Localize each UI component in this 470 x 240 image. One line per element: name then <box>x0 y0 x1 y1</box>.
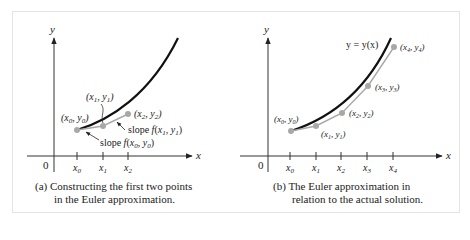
svg-text:x1: x1 <box>311 162 320 175</box>
svg-text:(x2, y2): (x2, y2) <box>134 108 162 121</box>
svg-text:x0: x0 <box>285 162 294 175</box>
caption-a: (a) Constructing the first two points in… <box>35 180 192 206</box>
svg-text:(x4, y4): (x4, y4) <box>400 42 425 53</box>
svg-text:(x2, y2): (x2, y2) <box>349 108 374 119</box>
caption-b-line1: (b) The Euler approximation in <box>273 180 410 192</box>
point-labels: (x0, y0) (x1, y1) (x2, y2) (x3, y3) (x4,… <box>274 42 425 140</box>
caption-a-line2: in the Euler approximation. <box>35 193 192 206</box>
svg-text:(x0, y0): (x0, y0) <box>274 114 299 125</box>
slope-arrow-1 <box>117 122 125 130</box>
panel-b: y x 0 x0 x1 x2 x3 x4 y = y(x) (x <box>240 23 451 175</box>
svg-text:(x0, y0): (x0, y0) <box>61 112 89 125</box>
x-axis-label: x <box>445 149 451 161</box>
y-axis-label: y <box>263 23 269 35</box>
slope-arrow-0 <box>86 132 99 140</box>
slope-label-1: slope f(x1, y1) <box>128 124 182 137</box>
svg-text:x2: x2 <box>336 162 345 175</box>
svg-text:x1: x1 <box>98 162 107 175</box>
svg-text:(x1, y1): (x1, y1) <box>86 91 114 104</box>
x-axis-label: x <box>195 149 201 161</box>
svg-text:x2: x2 <box>123 162 132 175</box>
point-labels: (x0, y0) (x1, y1) (x2, y2) <box>61 91 162 125</box>
origin-label: 0 <box>43 159 49 171</box>
caption-b-line2: relation to the actual solution. <box>273 193 423 206</box>
svg-text:(x3, y3): (x3, y3) <box>375 82 400 93</box>
caption-a-line1: (a) Constructing the first two points <box>35 180 192 192</box>
curve-label: y = y(x) <box>346 39 378 51</box>
svg-text:(x1, y1): (x1, y1) <box>321 129 346 140</box>
y-axis-label: y <box>49 23 55 35</box>
svg-text:x0: x0 <box>72 162 81 175</box>
svg-text:x3: x3 <box>362 162 371 175</box>
caption-b: (b) The Euler approximation in relation … <box>273 180 423 206</box>
origin-label: 0 <box>258 159 264 171</box>
slope-label-0: slope f(x0, y0) <box>100 137 154 150</box>
tick-labels: x0 x1 x2 <box>72 162 132 175</box>
svg-text:x4: x4 <box>388 162 397 175</box>
panel-a: y x 0 x0 x1 x2 (x0, y0) (x1, y1) (x2, y2… <box>27 23 201 175</box>
tick-labels: x0 x1 x2 x3 x4 <box>285 162 397 175</box>
